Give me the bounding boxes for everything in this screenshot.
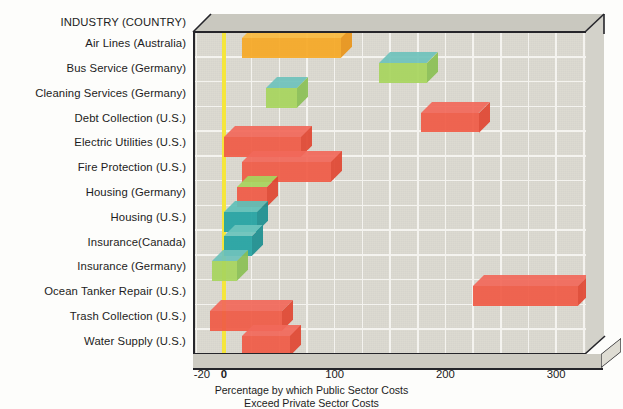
x-tick-label: 200 bbox=[436, 368, 455, 380]
bar-13 bbox=[242, 336, 291, 354]
bar-side-face bbox=[297, 77, 309, 109]
caption-line-2: Exceed Private Sector Costs bbox=[0, 397, 623, 409]
box-corner-top-left bbox=[192, 13, 212, 33]
category-label: Water Supply (U.S.) bbox=[84, 335, 186, 347]
plot-panel bbox=[193, 32, 586, 354]
x-tick-label: 0 bbox=[221, 368, 227, 380]
x-tick-label: 300 bbox=[547, 368, 566, 380]
bar-front-face bbox=[473, 286, 578, 306]
bar-side-face bbox=[290, 325, 302, 354]
bar-side-face bbox=[252, 225, 264, 257]
gridline-horizontal bbox=[193, 106, 586, 108]
frame-edge-top bbox=[193, 31, 586, 33]
category-label: Insurance (Germany) bbox=[77, 260, 186, 272]
category-label: Insurance(Canada) bbox=[88, 236, 186, 248]
box-right-face bbox=[586, 14, 604, 354]
category-label: Cleaning Services (Germany) bbox=[35, 87, 186, 99]
category-label: Electric Utilities (U.S.) bbox=[74, 136, 186, 148]
bar-top-face bbox=[242, 151, 343, 163]
bar-side-face bbox=[341, 32, 353, 59]
category-label: Housing (U.S.) bbox=[111, 211, 186, 223]
bar-2 bbox=[379, 63, 427, 83]
bar-front-face bbox=[379, 63, 427, 83]
bar-side-face bbox=[427, 52, 439, 84]
bar-1 bbox=[242, 38, 342, 58]
plot-area-3d bbox=[193, 14, 603, 354]
bar-3 bbox=[266, 88, 297, 108]
bar-side-face bbox=[578, 275, 586, 307]
bar-front-face bbox=[421, 113, 479, 133]
caption-line-1: Percentage by which Public Sector Costs bbox=[0, 384, 623, 397]
frame-edge-left bbox=[193, 31, 195, 355]
box-corner-top-right bbox=[584, 13, 605, 34]
bar-front-face bbox=[212, 261, 237, 281]
box-top-face bbox=[193, 14, 603, 32]
bar-top-face bbox=[210, 300, 293, 312]
category-label: Air Lines (Australia) bbox=[85, 37, 186, 49]
category-label: Ocean Tanker Repair (U.S.) bbox=[44, 285, 186, 297]
x-tick-label: 100 bbox=[325, 368, 344, 380]
bar-top-face bbox=[224, 126, 312, 138]
bar-side-face bbox=[479, 102, 491, 134]
bar-top-face bbox=[242, 32, 353, 39]
bar-front-face bbox=[242, 38, 342, 58]
bar-top-face bbox=[473, 275, 586, 287]
category-label: Debt Collection (U.S.) bbox=[75, 112, 186, 124]
bar-front-face bbox=[242, 336, 291, 354]
category-label: Fire Protection (U.S.) bbox=[78, 161, 186, 173]
category-label-column: INDUSTRY (COUNTRY)Air Lines (Australia)B… bbox=[0, 0, 192, 345]
x-axis-caption: Percentage by which Public Sector Costs … bbox=[0, 384, 623, 409]
category-label: Bus Service (Germany) bbox=[67, 62, 187, 74]
category-label: Trash Collection (U.S.) bbox=[70, 310, 186, 322]
industry-country-header: INDUSTRY (COUNTRY) bbox=[61, 16, 186, 28]
category-label: Housing (Germany) bbox=[86, 186, 186, 198]
bar-4 bbox=[421, 113, 479, 133]
bar-11 bbox=[473, 286, 578, 306]
x-tick-label: -20 bbox=[194, 368, 210, 380]
bar-10 bbox=[212, 261, 237, 281]
bar-side-face bbox=[331, 151, 343, 183]
bar-side-face bbox=[237, 250, 249, 282]
bar-front-face bbox=[266, 88, 297, 108]
